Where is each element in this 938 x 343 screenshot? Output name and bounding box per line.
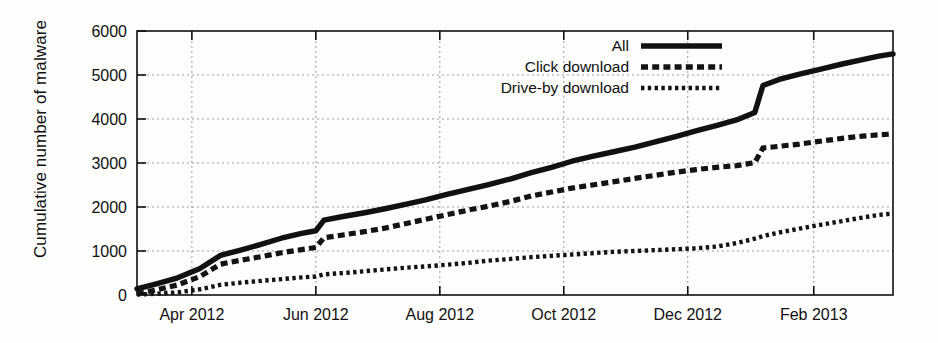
y-tick-label: 1000 [91,243,127,260]
x-tick-label: Aug 2012 [406,306,475,323]
legend-label: All [612,37,629,54]
legend-label: Drive-by download [501,79,629,96]
x-tick-label: Oct 2012 [531,306,596,323]
x-tick-label: Dec 2012 [653,306,722,323]
chart-legend: AllClick downloadDrive-by download [501,37,722,96]
plot-frame [137,31,893,295]
y-tick-label: 2000 [91,199,127,216]
y-tick-group: 0100020003000400050006000 [91,23,146,304]
y-tick-label: 5000 [91,67,127,84]
legend-label: Click download [525,58,629,75]
y-tick-label: 6000 [91,23,127,40]
y-tick-label: 4000 [91,111,127,128]
x-tick-label: Feb 2013 [780,306,848,323]
x-tick-label: Jun 2012 [283,306,349,323]
gridlines-group [137,31,893,295]
chart-figure: Cumulative number of malware 01000200030… [0,0,938,343]
y-tick-label: 3000 [91,155,127,172]
line-chart-plot: 0100020003000400050006000 Apr 2012Jun 20… [0,0,938,343]
series-line-drive-by-download [137,214,893,295]
y-tick-label: 0 [118,287,127,304]
series-line-click-download [137,134,893,294]
x-tick-label: Apr 2012 [159,306,224,323]
